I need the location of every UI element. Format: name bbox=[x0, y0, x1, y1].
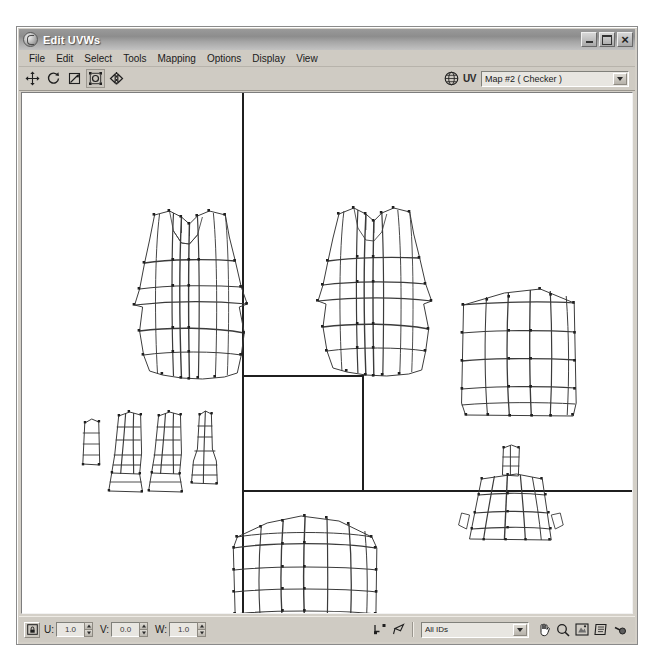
menu-item-select[interactable]: Select bbox=[79, 52, 118, 65]
u-label: U: bbox=[44, 624, 54, 635]
menu-item-display[interactable]: Display bbox=[247, 52, 291, 65]
w-input[interactable]: 1.0 bbox=[169, 622, 197, 637]
shell-trim-strips-cluster[interactable] bbox=[82, 410, 218, 492]
snap-icon bbox=[614, 624, 627, 636]
window-title: Edit UVWs bbox=[43, 34, 100, 46]
menu-bar: File Edit Select Tools Mapping Options D… bbox=[19, 50, 635, 67]
scale-corner-icon bbox=[67, 71, 82, 86]
menu-item-mapping[interactable]: Mapping bbox=[153, 52, 202, 65]
menu-item-options[interactable]: Options bbox=[202, 52, 247, 65]
uv-edit-canvas[interactable] bbox=[21, 92, 633, 614]
shell-vest-front-panel[interactable] bbox=[133, 209, 248, 380]
snap-toggle[interactable] bbox=[611, 621, 629, 638]
status-divider bbox=[412, 622, 414, 637]
freeform-tool[interactable] bbox=[86, 69, 105, 88]
zoom-region-tool[interactable] bbox=[573, 621, 591, 638]
edit-uvws-window: Edit UVWs File Edit Select Tools Mapping… bbox=[16, 26, 638, 645]
weld-selected-button[interactable] bbox=[371, 621, 389, 638]
rotate-circular-arrow-icon bbox=[46, 71, 61, 86]
v-spinner-arrows[interactable] bbox=[139, 622, 148, 637]
v-label: V: bbox=[100, 624, 109, 635]
v-spinner[interactable]: 0.0 bbox=[111, 622, 148, 637]
weld-vertices-icon bbox=[373, 623, 387, 636]
map-select-value: Map #2 ( Checker ) bbox=[482, 74, 562, 84]
title-bar: Edit UVWs bbox=[19, 29, 635, 50]
move-arrows-icon bbox=[25, 71, 40, 86]
max-logo-icon bbox=[23, 32, 38, 47]
zoom-extents-icon bbox=[594, 623, 608, 636]
status-bar: U: 1.0 V: 0.0 W: 1.0 bbox=[19, 616, 635, 642]
map-select-combo[interactable]: Map #2 ( Checker ) bbox=[481, 71, 629, 87]
u-coordinate-group: U: 1.0 bbox=[44, 622, 93, 637]
chevron-down-icon[interactable] bbox=[513, 624, 527, 636]
shell-side-panel-rect[interactable] bbox=[461, 287, 577, 417]
v-coordinate-group: V: 0.0 bbox=[100, 622, 148, 637]
show-map-globe-icon[interactable] bbox=[444, 71, 459, 86]
close-button[interactable] bbox=[617, 32, 633, 47]
menu-item-view[interactable]: View bbox=[291, 52, 324, 65]
zoom-magnifier-icon bbox=[556, 623, 570, 637]
zoom-region-icon bbox=[575, 623, 589, 636]
pan-tool[interactable] bbox=[535, 621, 553, 638]
u-spinner-arrows[interactable] bbox=[84, 622, 93, 637]
toolbar: UV Map #2 ( Checker ) bbox=[19, 67, 635, 91]
map-display-group: UV Map #2 ( Checker ) bbox=[444, 71, 635, 87]
u-spinner[interactable]: 1.0 bbox=[56, 622, 93, 637]
maximize-button[interactable] bbox=[599, 32, 615, 47]
material-id-filter-value: All IDs bbox=[422, 625, 448, 634]
window-controls bbox=[581, 32, 633, 47]
uv-shells-viewport[interactable] bbox=[22, 93, 632, 613]
shell-bottom-panel-rect[interactable] bbox=[232, 514, 377, 613]
menu-item-edit[interactable]: Edit bbox=[51, 52, 79, 65]
w-coordinate-group: W: 1.0 bbox=[155, 622, 206, 637]
scale-tool[interactable] bbox=[65, 69, 84, 88]
mirror-horizontal-icon bbox=[109, 71, 124, 86]
chevron-down-icon[interactable] bbox=[613, 73, 627, 85]
lock-icon bbox=[27, 624, 38, 635]
status-bar-right-group: All IDs bbox=[371, 621, 630, 638]
lock-selected-vertices-button[interactable] bbox=[24, 622, 40, 638]
uv-guide-lines bbox=[243, 93, 632, 613]
uv-unit-square bbox=[243, 376, 363, 491]
shell-vest-back-panel[interactable] bbox=[316, 206, 432, 377]
move-tool[interactable] bbox=[23, 69, 42, 88]
v-input[interactable]: 0.0 bbox=[111, 622, 139, 637]
pan-hand-icon bbox=[537, 623, 552, 637]
w-spinner-arrows[interactable] bbox=[197, 622, 206, 637]
w-label: W: bbox=[155, 624, 167, 635]
w-spinner[interactable]: 1.0 bbox=[169, 622, 206, 637]
zoom-extents-tool[interactable] bbox=[592, 621, 610, 638]
freeform-gizmo-icon bbox=[88, 71, 103, 86]
rotate-tool[interactable] bbox=[44, 69, 63, 88]
shell-vertices bbox=[461, 287, 576, 417]
target-weld-button[interactable] bbox=[390, 621, 408, 638]
material-id-filter-combo[interactable]: All IDs bbox=[421, 622, 529, 638]
target-weld-icon bbox=[392, 623, 406, 636]
u-input[interactable]: 1.0 bbox=[56, 622, 84, 637]
shell-collar-piece[interactable] bbox=[459, 445, 564, 540]
uv-channel-label: UV bbox=[463, 73, 476, 84]
zoom-tool[interactable] bbox=[554, 621, 572, 638]
minimize-button[interactable] bbox=[581, 32, 597, 47]
menu-item-file[interactable]: File bbox=[24, 52, 51, 65]
menu-item-tools[interactable]: Tools bbox=[118, 52, 152, 65]
mirror-tool[interactable] bbox=[107, 69, 126, 88]
